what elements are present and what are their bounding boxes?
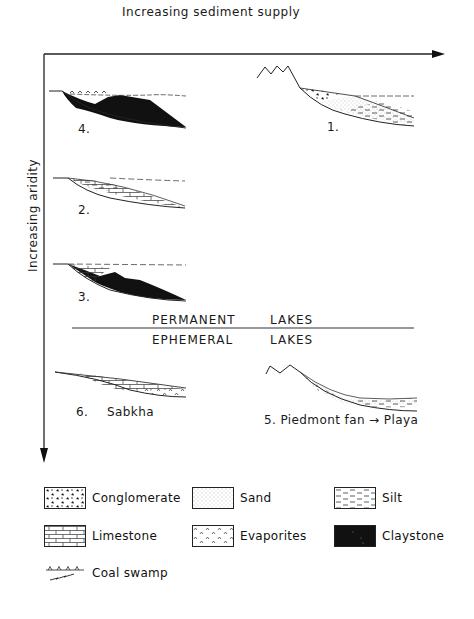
panel-3-label: 3. (78, 290, 90, 304)
legend-limestone: Limestone (44, 525, 157, 547)
sand-swatch (192, 487, 234, 509)
panel-5-sketch (266, 365, 417, 411)
ephemeral-lakes-label: LAKES (270, 333, 313, 347)
ephemeral-label: EPHEMERAL (152, 333, 233, 347)
legend-sand: Sand (192, 487, 271, 509)
panel-6-number: 6. (76, 405, 88, 419)
legend-claystone: Claystone (334, 525, 444, 547)
legend-label: Claystone (382, 529, 444, 543)
x-axis-label: Increasing sediment supply (122, 5, 300, 19)
legend-label: Limestone (92, 529, 157, 543)
legend-label: Evaporites (240, 529, 307, 543)
permanent-label: PERMANENT (152, 313, 236, 327)
panel-1-label: 1. (327, 120, 339, 134)
panel-4-sketch (49, 91, 186, 128)
legend-label: Sand (240, 491, 271, 505)
y-axis-label: Increasing aridity (26, 162, 40, 272)
coal-swamp-icon (44, 562, 86, 584)
legend-label: Conglomerate (92, 491, 181, 505)
y-axis-arrow (40, 54, 48, 463)
silt-swatch (334, 487, 376, 509)
panel-5-label: 5. Piedmont fan → Playa (264, 413, 418, 427)
panel-2-sketch (53, 178, 185, 208)
conglomerate-swatch (44, 487, 86, 509)
panel-3-sketch (53, 264, 186, 301)
legend-label: Coal swamp (92, 566, 168, 580)
panel-4-label: 4. (78, 122, 90, 136)
claystone-swatch (334, 525, 376, 547)
panel-2-label: 2. (78, 203, 90, 217)
limestone-swatch (44, 525, 86, 547)
legend-coal-swamp: Coal swamp (44, 562, 168, 584)
legend-evaporites: Evaporites (192, 525, 307, 547)
panel-6-sketch (55, 372, 186, 397)
panel-1-sketch (257, 66, 414, 126)
legend-conglomerate: Conglomerate (44, 487, 181, 509)
legend-silt: Silt (334, 487, 402, 509)
permanent-lakes-label: LAKES (270, 313, 313, 327)
x-axis-arrow (44, 50, 445, 58)
evaporites-swatch (192, 525, 234, 547)
legend-label: Silt (382, 491, 402, 505)
panel-6-name: Sabkha (107, 405, 154, 419)
